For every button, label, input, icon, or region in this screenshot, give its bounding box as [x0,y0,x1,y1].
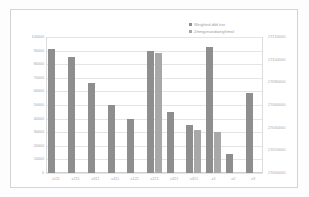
chart-container[interactable]: Weighted ddd tive Zmmgznanidweightmol 01… [10,9,298,188]
bar-group[interactable] [105,37,125,173]
screenshot-frame: Weighted ddd tive Zmmgznanidweightmol 01… [0,0,309,197]
bar-series-1[interactable] [127,119,134,173]
bar-series-2[interactable] [194,130,201,173]
y-axis-tick-label-right: 27040000 [268,126,285,130]
x-axis-tick-label: x221 [145,176,165,181]
y-axis-tick-label-right: 27060000 [268,103,285,107]
bar-series-1[interactable] [226,154,233,173]
y-axis-tick-label-left: 90000 [34,49,44,53]
bar-series-1[interactable] [186,125,193,173]
legend-label: Weighted ddd tive [194,22,225,27]
y-axis-left: 0100002000030000400005000060000700008000… [19,37,44,173]
x-axis-tick-label: x421 [184,176,204,181]
chart-legend: Weighted ddd tive Zmmgznanidweightmol [189,21,289,35]
x-axis-tick-label: z1 [204,176,224,181]
y-axis-tick-label-right: 27080000 [268,80,285,84]
y-axis-tick-label-left: 30000 [34,130,44,134]
bar-series-1[interactable] [206,47,213,173]
legend-swatch-icon [189,30,192,33]
bar-group[interactable] [243,37,263,173]
bar-group[interactable] [224,37,244,173]
y-axis-tick-label-right: 27000000 [268,171,285,175]
bar-group[interactable] [184,37,204,173]
y-axis-tick-label-right: 27020000 [268,148,285,152]
gridline [46,173,263,174]
x-axis-tick-label: x311 [85,176,105,181]
x-axis-tick-label: z3 [243,176,263,181]
y-axis-tick-label-left: 60000 [34,89,44,93]
y-axis-tick-label-left: 20000 [34,144,44,148]
x-axis-tick-label: x111 [46,176,66,181]
y-axis-tick-label-right: 27120000 [268,35,285,39]
y-axis-tick-label-left: 70000 [34,76,44,80]
x-axis-tick-label: z2 [224,176,244,181]
x-axis-labels: x111x211x311x411x121x221x321x421z1z2z3 [46,176,263,186]
bar-series-1[interactable] [108,105,115,173]
legend-swatch-icon [189,23,192,26]
bar-series-2[interactable] [214,132,221,173]
bar-series-2[interactable] [155,53,162,173]
y-axis-tick-label-left: 0 [42,171,44,175]
bar-series-1[interactable] [48,49,55,173]
bar-group[interactable] [66,37,86,173]
y-axis-tick-label-left: 50000 [34,103,44,107]
bar-group[interactable] [46,37,66,173]
legend-entry-series-1[interactable]: Weighted ddd tive [189,21,289,27]
bar-group[interactable] [145,37,165,173]
y-axis-tick-label-left: 80000 [34,62,44,66]
y-axis-tick-label-right: 27100000 [268,58,285,62]
bar-group[interactable] [125,37,145,173]
bar-series-1[interactable] [147,51,154,173]
bar-group[interactable] [85,37,105,173]
bar-series-1[interactable] [68,57,75,173]
bar-series-1[interactable] [167,112,174,173]
legend-label: Zmmgznanidweightmol [194,29,234,34]
y-axis-right: 2700000027020000270400002706000027080000… [265,37,309,173]
y-axis-tick-label-left: 10000 [34,157,44,161]
bar-series-1[interactable] [88,83,95,173]
y-axis-tick-label-left: 40000 [34,117,44,121]
bar-group[interactable] [164,37,184,173]
bar-series-1[interactable] [246,93,253,173]
y-axis-tick-label-left: 100000 [32,35,44,39]
plot-area[interactable] [46,37,263,173]
x-axis-tick-label: x321 [164,176,184,181]
x-axis-tick-label: x121 [125,176,145,181]
bar-group[interactable] [204,37,224,173]
x-axis-tick-label: x411 [105,176,125,181]
x-axis-tick-label: x211 [66,176,86,181]
